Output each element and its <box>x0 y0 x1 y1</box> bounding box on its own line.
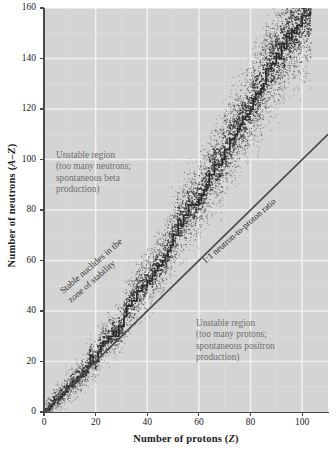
nuclide-point <box>138 294 140 296</box>
nuclide-point <box>166 279 167 280</box>
nuclide-point <box>270 37 271 38</box>
nuclide-point <box>171 218 172 219</box>
nuclide-point <box>262 61 263 62</box>
nuclide-point <box>281 12 282 13</box>
nuclide-point <box>289 18 291 20</box>
nuclide-point <box>213 157 215 159</box>
nuclide-point <box>168 225 169 226</box>
nuclide-point <box>291 27 293 29</box>
nuclide-point <box>281 76 282 77</box>
nuclide-point <box>255 100 257 102</box>
nuclide-point <box>233 184 234 185</box>
nuclide-point <box>83 364 84 365</box>
nuclide-point <box>194 188 195 189</box>
nuclide-point <box>180 232 182 234</box>
nuclide-point <box>274 11 275 12</box>
nuclide-point <box>283 103 284 104</box>
nuclide-point <box>270 105 271 106</box>
nuclide-point <box>143 283 145 285</box>
nuclide-point <box>265 103 266 104</box>
nuclide-point <box>251 122 253 124</box>
nuclide-point <box>206 202 207 203</box>
nuclide-point <box>216 159 218 161</box>
nuclide-point <box>95 366 97 368</box>
nuclide-point <box>104 345 106 347</box>
nuclide-point <box>297 39 299 41</box>
nuclide-point <box>54 396 56 398</box>
nuclide-point <box>165 277 166 278</box>
nuclide-point <box>218 181 219 182</box>
nuclide-point <box>130 283 131 284</box>
x-tick-mark <box>95 412 96 416</box>
nuclide-point <box>180 204 181 205</box>
nuclide-point <box>231 85 232 86</box>
nuclide-point <box>126 282 127 283</box>
nuclide-point <box>301 47 302 48</box>
nuclide-point <box>153 295 154 296</box>
nuclide-point <box>292 74 293 75</box>
nuclide-point <box>255 81 257 83</box>
nuclide-point <box>260 100 262 102</box>
nuclide-point <box>239 98 240 99</box>
nuclide-point <box>209 150 210 151</box>
nuclide-point <box>161 271 163 273</box>
nuclide-point <box>282 98 283 99</box>
nuclide-point <box>174 248 175 249</box>
nuclide-point <box>263 40 264 41</box>
nuclide-point <box>276 32 277 33</box>
nuclide-point <box>196 183 197 184</box>
nuclide-point <box>247 88 248 89</box>
nuclide-point <box>243 111 245 113</box>
nuclide-point <box>223 137 225 139</box>
nuclide-point <box>75 369 76 370</box>
nuclide-point <box>165 234 166 235</box>
nuclide-point <box>310 57 311 58</box>
nuclide-point <box>310 9 312 11</box>
nuclide-point <box>249 98 251 100</box>
nuclide-point <box>239 113 241 115</box>
nuclide-point <box>278 50 280 52</box>
nuclide-point <box>141 266 142 267</box>
nuclide-point <box>71 379 73 381</box>
nuclide-point <box>270 33 271 34</box>
nuclide-point <box>162 246 163 247</box>
nuclide-point <box>205 198 207 200</box>
nuclide-point <box>185 185 186 186</box>
nuclide-point <box>125 281 126 282</box>
nuclide-point <box>165 232 166 233</box>
nuclide-point <box>175 191 176 192</box>
nuclide-point <box>272 67 274 69</box>
nuclide-point <box>219 137 220 138</box>
nuclide-point <box>166 237 167 238</box>
nuclide-point <box>187 201 189 203</box>
nuclide-point <box>56 408 57 409</box>
nuclide-point <box>148 256 149 257</box>
nuclide-point <box>77 385 78 386</box>
nuclide-point <box>156 252 157 253</box>
nuclide-point <box>177 195 178 196</box>
nuclide-point <box>122 309 124 311</box>
nuclide-point <box>171 219 172 220</box>
nuclide-point <box>276 67 278 69</box>
nuclide-point <box>130 313 131 314</box>
nuclide-point <box>292 26 294 28</box>
nuclide-point <box>273 8 274 9</box>
nuclide-point <box>67 382 69 384</box>
nuclide-point <box>260 36 261 37</box>
nuclide-point <box>239 146 240 147</box>
nuclide-point <box>103 333 105 335</box>
nuclide-point <box>210 181 212 183</box>
nuclide-point <box>201 208 203 210</box>
nuclide-point <box>238 108 239 109</box>
nuclide-point <box>249 128 250 129</box>
nuclide-point <box>259 148 260 149</box>
nuclide-point <box>173 220 174 221</box>
nuclide-point <box>135 262 136 263</box>
nuclide-point <box>145 308 146 309</box>
nuclide-point <box>278 12 279 13</box>
nuclide-point <box>247 105 249 107</box>
nuclide-point <box>131 309 133 311</box>
nuclide-point <box>252 48 253 49</box>
nuclide-point <box>220 160 222 162</box>
nuclide-point <box>291 43 293 45</box>
